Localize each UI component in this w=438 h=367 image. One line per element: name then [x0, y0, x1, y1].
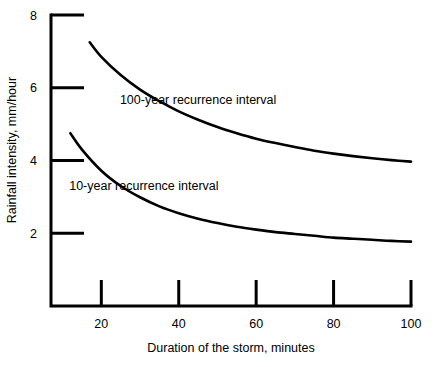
- x-axis-tick-labels: 20406080100: [94, 317, 421, 331]
- x-axis-tick-label: 100: [401, 317, 422, 331]
- series-label: 100-year recurrence interval: [120, 93, 276, 107]
- axes: 2468 20406080100: [30, 9, 421, 332]
- chart-canvas: 2468 20406080100 100-year recurrence int…: [0, 0, 438, 367]
- y-axis-tick-label: 2: [30, 227, 37, 241]
- rainfall-intensity-chart: 2468 20406080100 100-year recurrence int…: [0, 0, 438, 367]
- y-axis-tick-labels: 2468: [30, 9, 37, 241]
- y-axis-title: Rainfall intensity, mm/hour: [5, 77, 19, 223]
- data-series: [70, 42, 411, 241]
- y-axis-tick-label: 6: [30, 81, 37, 95]
- x-axis-tick-label: 60: [249, 317, 263, 331]
- x-axis-tick-label: 20: [94, 317, 108, 331]
- x-axis-title: Duration of the storm, minutes: [147, 341, 314, 355]
- y-axis-tick-label: 8: [30, 9, 37, 23]
- series-label: 10-year recurrence interval: [69, 179, 218, 193]
- y-axis-tick-label: 4: [30, 154, 37, 168]
- x-axis-tick-label: 40: [172, 317, 186, 331]
- x-axis-tick-label: 80: [327, 317, 341, 331]
- axis-lines: [51, 15, 411, 306]
- x-axis-ticks: [101, 280, 411, 306]
- y-axis-ticks: [51, 15, 84, 233]
